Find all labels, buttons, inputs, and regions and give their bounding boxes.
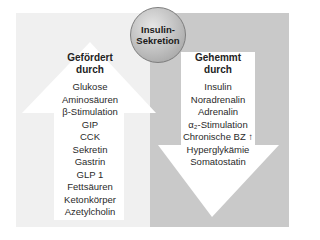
list-item: Noradrenalin [168,94,268,107]
list-item: Ketonkörper [40,194,140,207]
center-label-line2: Sekretion [136,35,179,46]
list-item: Azetylcholin [40,206,140,219]
center-label-line1: Insulin- [141,24,175,35]
list-item: Insulin [168,81,268,94]
list-item: Somatostatin [168,156,268,169]
list-item: β-Stimulation [40,106,140,119]
stimulators-column: Gefördert durch Glukose Aminosäuren β-St… [40,52,140,219]
list-item: Sekretin [40,144,140,157]
list-item: Adrenalin [168,106,268,119]
list-item: Fettsäuren [40,181,140,194]
list-item: α₂-Stimulation [168,119,268,132]
list-item: GIP [40,119,140,132]
list-item: GLP 1 [40,169,140,182]
inhibitors-column: Gehemmt durch Insulin Noradrenalin Adren… [168,52,268,169]
stimulators-heading-line1: Gefördert [40,52,140,64]
list-item: Chronische BZ ↑ [168,131,268,144]
list-item: Glukose [40,81,140,94]
list-item: CCK [40,131,140,144]
inhibitors-heading-line2: durch [168,64,268,76]
stimulators-heading-line2: durch [40,64,140,76]
list-item: Hyperglykämie [168,144,268,157]
list-item: Gastrin [40,156,140,169]
inhibitors-heading-line1: Gehemmt [168,52,268,64]
list-item: Aminosäuren [40,94,140,107]
